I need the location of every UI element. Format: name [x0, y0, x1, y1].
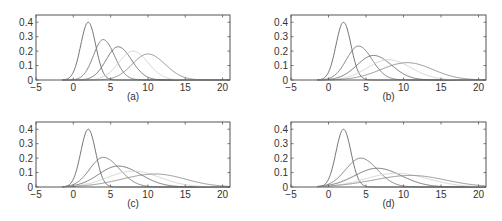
axes-box: [291, 15, 486, 80]
series-line-2: [62, 157, 229, 187]
y-tick-label: 0.4: [274, 124, 288, 135]
curves: [317, 22, 485, 80]
y-tick-label: 0.1: [19, 60, 33, 71]
x-tick-label: 5: [363, 82, 369, 93]
y-tick-label: 0: [282, 182, 288, 193]
panel-label: (c): [127, 198, 139, 209]
y-tick-label: 0.2: [274, 153, 288, 164]
y-tick-label: 0: [27, 75, 33, 86]
series-line-3: [317, 55, 485, 80]
x-tick-label: 20: [473, 189, 485, 200]
curves: [317, 129, 485, 187]
series-line-1: [317, 129, 485, 187]
y-tick-label: 0.2: [274, 46, 288, 57]
panel-a: −50510152000.10.20.30.4(a): [19, 15, 230, 102]
y-tick-label: 0.3: [19, 31, 33, 42]
series-line-1: [62, 22, 229, 80]
x-tick-label: 15: [180, 189, 192, 200]
panel-c: −50510152000.10.20.30.4(c): [19, 122, 230, 209]
x-axis: −505101520: [30, 122, 228, 200]
axes-box: [36, 15, 230, 80]
y-tick-label: 0.1: [274, 60, 288, 71]
x-tick-label: 20: [217, 82, 229, 93]
y-tick-label: 0.2: [19, 153, 33, 164]
y-tick-label: 0.3: [19, 138, 33, 149]
panel-label: (a): [127, 91, 139, 102]
x-tick-label: 10: [142, 189, 154, 200]
x-axis: −505101520: [285, 122, 484, 200]
y-tick-label: 0.1: [274, 167, 288, 178]
y-tick-label: 0.3: [274, 138, 288, 149]
x-axis: −505101520: [285, 15, 484, 93]
x-tick-label: 10: [398, 189, 410, 200]
x-tick-label: 10: [398, 82, 410, 93]
curves: [62, 22, 229, 80]
x-tick-label: 5: [108, 82, 114, 93]
series-line-1: [317, 22, 485, 80]
x-tick-label: 15: [180, 82, 192, 93]
y-tick-label: 0: [27, 182, 33, 193]
x-tick-label: 20: [217, 189, 229, 200]
x-tick-label: 5: [108, 189, 114, 200]
y-axis: 00.10.20.30.4: [19, 17, 230, 86]
y-tick-label: 0.4: [274, 17, 288, 28]
series-line-1: [62, 129, 229, 187]
series-line-4: [62, 171, 229, 187]
x-tick-label: 15: [435, 189, 447, 200]
panel-label: (d): [382, 198, 394, 209]
x-tick-label: 0: [71, 189, 77, 200]
x-tick-label: 20: [473, 82, 485, 93]
y-tick-label: 0: [282, 75, 288, 86]
series-line-5: [62, 174, 229, 187]
x-tick-label: 10: [142, 82, 154, 93]
x-tick-label: 5: [363, 189, 369, 200]
y-tick-label: 0.1: [19, 167, 33, 178]
x-tick-label: 0: [326, 189, 332, 200]
y-tick-label: 0.2: [19, 46, 33, 57]
y-axis: 00.10.20.30.4: [274, 17, 486, 86]
series-line-3: [62, 47, 229, 80]
panel-d: −50510152000.10.20.30.4(d): [274, 122, 486, 209]
x-tick-label: 0: [326, 82, 332, 93]
y-tick-label: 0.4: [19, 124, 33, 135]
x-tick-label: 0: [71, 82, 77, 93]
panel-label: (b): [382, 91, 394, 102]
curves: [62, 129, 229, 187]
y-tick-label: 0.4: [19, 17, 33, 28]
panel-b: −50510152000.10.20.30.4(b): [274, 15, 486, 102]
figure: −50510152000.10.20.30.4(a) −50510152000.…: [0, 0, 502, 221]
x-axis: −505101520: [30, 15, 228, 93]
axes-box: [36, 122, 230, 187]
y-tick-label: 0.3: [274, 31, 288, 42]
x-tick-label: 15: [435, 82, 447, 93]
series-line-5: [317, 63, 485, 80]
